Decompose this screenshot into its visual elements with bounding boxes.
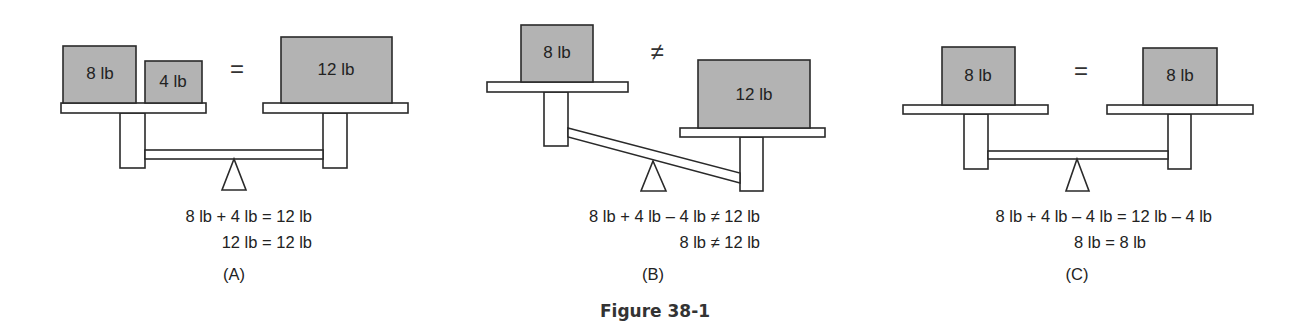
weight-label: 12 lb: [318, 60, 355, 79]
right-post: [323, 113, 347, 168]
left-post: [544, 92, 568, 146]
panel-label: (A): [223, 265, 245, 283]
equation-line-2: 8 lb = 8 lb: [1074, 233, 1146, 251]
balance-scales-figure: 8 lb 4 lb 12 lb = 8 lb + 4 lb = 12 lb 12…: [0, 0, 1313, 329]
equation-line-1: 8 lb + 4 lb – 4 lb = 12 lb – 4 lb: [996, 207, 1213, 225]
left-post: [120, 113, 145, 168]
weight-box: 12 lb: [281, 37, 392, 103]
panel-b: 8 lb 12 lb ≠ 8 lb + 4 lb – 4 lb ≠ 12 lb …: [487, 25, 825, 283]
left-post: [964, 114, 988, 169]
equals-sign: =: [1074, 57, 1088, 84]
figure-caption: Figure 38-1: [600, 301, 710, 321]
weight-box: 8 lb: [63, 46, 136, 103]
right-pan: [263, 103, 408, 113]
equation-line-1: 8 lb + 4 lb – 4 lb ≠ 12 lb: [589, 207, 760, 225]
panel-c: 8 lb 8 lb = 8 lb + 4 lb – 4 lb = 12 lb –…: [903, 47, 1253, 283]
not-equals-sign: ≠: [650, 38, 663, 65]
weight-label: 8 lb: [1166, 66, 1193, 85]
weight-label: 8 lb: [543, 43, 570, 62]
panel-a: 8 lb 4 lb 12 lb = 8 lb + 4 lb = 12 lb 12…: [61, 37, 408, 283]
weight-label: 12 lb: [736, 85, 773, 104]
weight-label: 8 lb: [964, 66, 991, 85]
weight-box: 4 lb: [145, 61, 202, 103]
panel-label: (B): [642, 265, 664, 283]
beam: [988, 151, 1168, 159]
left-pan: [903, 105, 1048, 114]
fulcrum-triangle-icon: [222, 159, 246, 190]
equation-line-1: 8 lb + 4 lb = 12 lb: [185, 207, 312, 225]
fulcrum-triangle-icon: [641, 161, 666, 191]
weight-label: 4 lb: [159, 72, 186, 91]
right-post: [740, 137, 763, 191]
panel-label: (C): [1066, 265, 1089, 283]
fulcrum-triangle-icon: [1066, 159, 1089, 191]
right-pan: [680, 128, 825, 137]
weight-box: 8 lb: [521, 25, 593, 82]
right-post: [1168, 114, 1191, 169]
equation-line-2: 8 lb ≠ 12 lb: [679, 233, 760, 251]
weight-box: 8 lb: [942, 47, 1015, 105]
weight-box: 8 lb: [1143, 48, 1217, 105]
left-pan: [487, 82, 628, 92]
equation-line-2: 12 lb = 12 lb: [222, 233, 312, 251]
left-pan: [61, 103, 206, 113]
right-pan: [1107, 105, 1253, 114]
weight-box: 12 lb: [698, 60, 810, 128]
equals-sign: =: [230, 55, 244, 82]
weight-label: 8 lb: [86, 64, 113, 83]
